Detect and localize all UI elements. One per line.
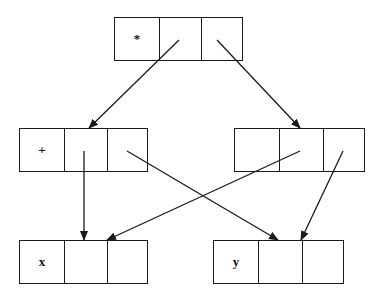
diagram-canvas: * + x y (0, 0, 384, 308)
node-plus: + (19, 128, 148, 172)
node-times-label-cell: * (115, 18, 159, 60)
node-x-label-cell: x (20, 241, 64, 283)
node-plus-left-pointer-cell (64, 129, 107, 171)
node-label: + (38, 142, 45, 158)
node-x-left-cell (64, 241, 107, 283)
node-y: y (213, 240, 344, 284)
node-blank-left-pointer-cell (279, 129, 323, 171)
node-y-left-cell (258, 241, 302, 283)
node-y-right-cell (302, 241, 343, 283)
node-x-right-cell (107, 241, 147, 283)
node-times-left-pointer-cell (159, 18, 201, 60)
node-plus-right-pointer-cell (107, 129, 147, 171)
node-blank-label-cell (235, 129, 279, 171)
node-times-right-pointer-cell (201, 18, 242, 60)
node-blank-right-pointer-cell (323, 129, 364, 171)
node-y-label-cell: y (214, 241, 258, 283)
node-plus-label-cell: + (20, 129, 64, 171)
node-label: y (233, 254, 240, 270)
node-label: * (134, 31, 141, 47)
node-label: x (39, 254, 46, 270)
node-x: x (19, 240, 148, 284)
node-times: * (114, 17, 243, 61)
node-blank (234, 128, 365, 172)
